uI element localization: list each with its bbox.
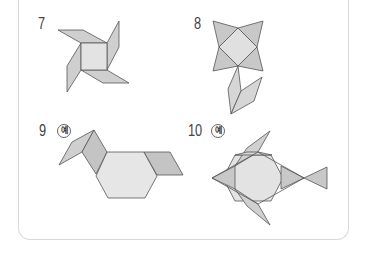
flower-figure bbox=[213, 21, 263, 114]
figures-canvas bbox=[0, 0, 366, 255]
fish-figure bbox=[212, 131, 327, 225]
dog-figure bbox=[59, 130, 183, 198]
pinwheel-figure bbox=[58, 21, 129, 92]
